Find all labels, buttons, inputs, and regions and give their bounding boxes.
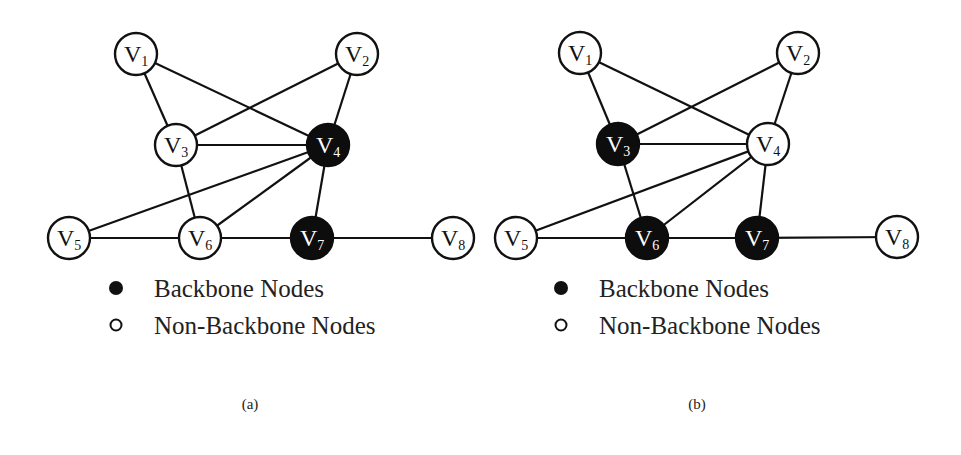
node-v8: V8 <box>876 216 918 258</box>
non-backbone-legend-icon <box>556 320 567 331</box>
node-v4: V4 <box>747 123 789 165</box>
node-v7: V7 <box>736 217 778 259</box>
node-v8: V8 <box>432 217 474 259</box>
panel-a-caption: (a) <box>242 396 259 413</box>
node-v5: V5 <box>48 217 90 259</box>
backbone-legend-label: Backbone Nodes <box>154 275 324 302</box>
node-v5: V5 <box>495 217 537 259</box>
node-v2: V2 <box>336 33 378 75</box>
panel-b-nodes: V1V2V3V4V5V6V7V8 <box>495 32 918 259</box>
backbone-legend-label: Backbone Nodes <box>599 275 769 302</box>
non-backbone-legend-label: Non-Backbone Nodes <box>599 312 820 339</box>
non-backbone-legend-label: Non-Backbone Nodes <box>154 312 375 339</box>
panel-a-legend: Backbone Nodes Non-Backbone Nodes <box>109 275 375 339</box>
node-v1: V1 <box>115 33 157 75</box>
node-v6: V6 <box>179 217 221 259</box>
backbone-legend-icon <box>554 281 568 295</box>
node-v2: V2 <box>777 32 819 74</box>
node-v4: V4 <box>307 124 349 166</box>
node-v3: V3 <box>155 124 197 166</box>
panel-a: V1V2V3V4V5V6V7V8 Backbone Nodes Non-Back… <box>48 33 474 413</box>
non-backbone-legend-icon <box>111 320 122 331</box>
panel-b-caption: (b) <box>688 396 706 413</box>
node-v3: V3 <box>597 123 639 165</box>
panel-b: V1V2V3V4V5V6V7V8 Backbone Nodes Non-Back… <box>495 32 918 413</box>
node-v7: V7 <box>291 217 333 259</box>
panel-b-edges <box>516 53 897 238</box>
network-backbone-figure: V1V2V3V4V5V6V7V8 Backbone Nodes Non-Back… <box>0 0 961 455</box>
node-v1: V1 <box>559 32 601 74</box>
backbone-legend-icon <box>109 281 123 295</box>
node-v6: V6 <box>626 217 668 259</box>
panel-a-edges <box>69 54 453 238</box>
panel-b-legend: Backbone Nodes Non-Backbone Nodes <box>554 275 820 339</box>
